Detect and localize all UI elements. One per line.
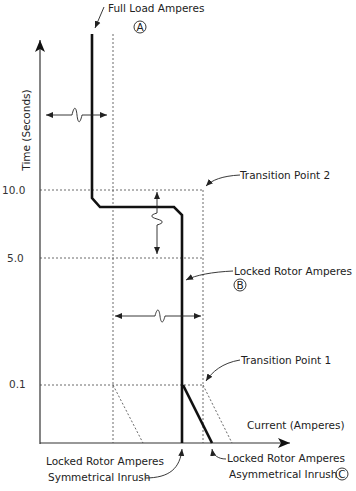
y-tick-10: 10.0 bbox=[2, 184, 25, 196]
transition-2-pointer bbox=[206, 175, 240, 186]
transition-1-label: Transition Point 1 bbox=[240, 354, 331, 366]
full-load-label: Full Load Amperes bbox=[108, 2, 204, 14]
lra-symmetrical-label-line2: Symmetrical Inrush bbox=[48, 471, 150, 483]
y-tick-0-1: 0.1 bbox=[9, 378, 26, 390]
full-load-pointer bbox=[95, 7, 104, 28]
marker-b: B bbox=[234, 279, 246, 291]
motor-starting-curve-diagram: Time (Seconds) Current (Amperes) 10.0 5.… bbox=[0, 0, 356, 491]
time-range-arrow bbox=[152, 192, 163, 254]
lra-asymmetrical-pointer bbox=[212, 449, 226, 459]
y-tick-5: 5.0 bbox=[7, 252, 24, 264]
lra-symmetrical-label-line1: Locked Rotor Amperes bbox=[46, 455, 164, 467]
motor-current-curve bbox=[92, 34, 182, 443]
marker-a: A bbox=[134, 21, 146, 33]
locked-rotor-range-arrow bbox=[115, 310, 201, 322]
transition-2-label: Transition Point 2 bbox=[239, 169, 330, 181]
svg-text:C: C bbox=[338, 468, 345, 480]
marker-c: C bbox=[336, 468, 348, 480]
lra-asymmetrical-label-line2: Asymmetrical Inrush bbox=[229, 468, 337, 480]
full-load-range-arrow bbox=[46, 108, 107, 122]
lra-asymmetrical-label-line1: Locked Rotor Amperes bbox=[227, 452, 345, 464]
svg-text:A: A bbox=[136, 21, 144, 33]
transition-1-pointer bbox=[206, 360, 240, 381]
locked-rotor-pointer bbox=[186, 271, 233, 280]
x-axis-label: Current (Amperes) bbox=[247, 419, 345, 431]
grid-lines bbox=[40, 34, 232, 443]
locked-rotor-label: Locked Rotor Amperes bbox=[234, 265, 352, 277]
svg-text:B: B bbox=[236, 279, 243, 291]
y-axis-label: Time (Seconds) bbox=[20, 89, 32, 171]
